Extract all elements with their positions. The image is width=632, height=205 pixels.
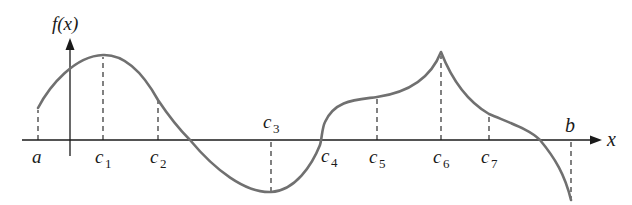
diagram-canvas: f(x) x a c 1 c 2 c 3 c 4 c 5 c 6 c 7 [0, 0, 632, 205]
svg-text:7: 7 [491, 156, 498, 171]
label-c3: c 3 [263, 111, 280, 136]
label-c5: c 5 [369, 146, 386, 171]
svg-text:c: c [481, 146, 490, 167]
svg-text:c: c [433, 146, 442, 167]
svg-text:c: c [95, 146, 104, 167]
function-curve [38, 52, 571, 200]
x-axis-arrow-icon [590, 136, 602, 145]
svg-text:c: c [263, 111, 272, 132]
svg-text:5: 5 [379, 156, 386, 171]
svg-text:2: 2 [160, 156, 167, 171]
y-axis-label: f(x) [52, 13, 78, 35]
svg-text:3: 3 [273, 121, 280, 136]
x-axis-label: x [606, 128, 616, 150]
label-c7: c 7 [481, 146, 498, 171]
dashed-guides [38, 56, 571, 198]
svg-text:c: c [321, 145, 330, 166]
svg-text:c: c [150, 146, 159, 167]
svg-text:6: 6 [443, 156, 450, 171]
function-critical-points-diagram: f(x) x a c 1 c 2 c 3 c 4 c 5 c 6 c 7 [0, 0, 632, 205]
label-c2: c 2 [150, 146, 167, 171]
label-c1: c 1 [95, 146, 112, 171]
svg-text:c: c [369, 146, 378, 167]
label-c4: c 4 [321, 145, 338, 170]
svg-text:1: 1 [105, 156, 112, 171]
label-b: b [565, 114, 575, 136]
label-a: a [32, 146, 42, 167]
svg-text:4: 4 [331, 155, 338, 170]
y-axis-arrow-icon [66, 38, 75, 50]
label-c6: c 6 [433, 146, 450, 171]
